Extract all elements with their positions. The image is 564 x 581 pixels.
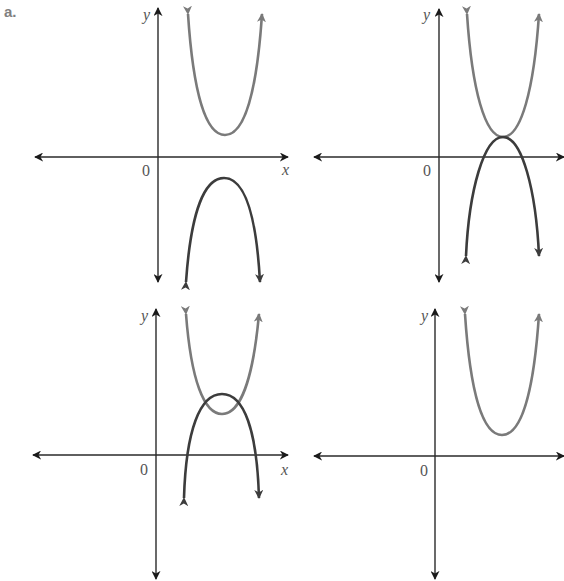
y-axis-label: y [141, 6, 151, 24]
upward-parabola [465, 314, 539, 435]
upward-parabola [186, 314, 259, 414]
upward-parabola [188, 14, 262, 135]
downward-parabola [466, 137, 539, 256]
panel-bottom-right: y 0 [314, 307, 564, 579]
origin-label: 0 [423, 162, 431, 179]
origin-label: 0 [142, 162, 150, 179]
panel-top-left: y x 0 [35, 6, 289, 282]
origin-label: 0 [420, 462, 428, 479]
y-axis-label: y [419, 307, 429, 325]
y-axis-label: y [139, 307, 149, 325]
panel-top-right: y 0 [314, 6, 564, 282]
upward-parabola [467, 14, 539, 137]
y-axis-label: y [421, 6, 431, 24]
downward-parabola [186, 178, 260, 282]
x-axis-label: x [281, 161, 289, 178]
x-axis-label: x [280, 461, 288, 478]
downward-parabola [184, 394, 259, 498]
origin-label: 0 [140, 461, 148, 478]
panel-bottom-left: y x 0 [33, 307, 288, 579]
